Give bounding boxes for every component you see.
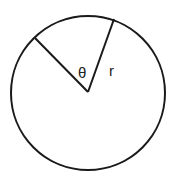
circle-sector-diagram: θ r [0,0,171,179]
circle-outline [11,16,165,170]
angle-label-theta: θ [78,64,86,81]
radius-label-r: r [109,62,114,79]
radius-line-right [88,19,114,92]
